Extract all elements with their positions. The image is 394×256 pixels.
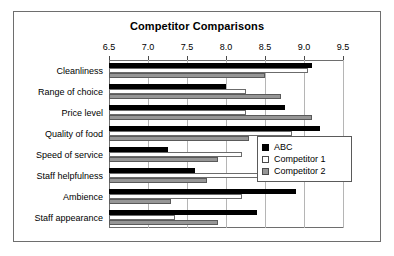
y-axis-category-label: Quality of food (45, 129, 103, 139)
legend-label: Competitor 2 (274, 166, 326, 176)
bar (109, 220, 218, 225)
legend-swatch-icon (262, 156, 269, 163)
bar (109, 157, 218, 162)
y-axis-category-labels: CleanlinessRange of choicePrice levelQua… (14, 60, 107, 228)
x-tick-label: 8.0 (220, 42, 233, 52)
bar (109, 94, 281, 99)
bar-group (109, 102, 343, 123)
y-axis-category-label: Cleanliness (56, 66, 103, 76)
bar (109, 73, 265, 78)
y-axis-category-label: Price level (61, 108, 103, 118)
bar-group (109, 186, 343, 207)
y-axis-category-label: Staff appearance (35, 213, 103, 223)
legend-item: ABC (262, 141, 346, 153)
bar-group (109, 60, 343, 81)
legend-swatch-icon (262, 144, 269, 151)
y-axis-category-label: Staff helpfulness (37, 171, 103, 181)
bar (109, 136, 249, 141)
x-tick-label: 7.5 (181, 42, 194, 52)
bar (109, 115, 312, 120)
bar (109, 199, 171, 204)
x-tick-label: 6.5 (103, 42, 116, 52)
x-tick-label: 8.5 (259, 42, 272, 52)
y-axis-category-label: Ambience (63, 192, 103, 202)
chart-frame: Competitor Comparisons 6.57.07.58.08.59.… (13, 11, 381, 242)
bar-group (109, 81, 343, 102)
bar (109, 178, 207, 183)
x-tick-label: 9.0 (298, 42, 311, 52)
y-axis-category-label: Range of choice (38, 87, 103, 97)
y-axis-category-label: Speed of service (36, 150, 103, 160)
legend-label: Competitor 1 (274, 154, 326, 164)
x-tick-label: 9.5 (337, 42, 350, 52)
legend-swatch-icon (262, 168, 269, 175)
legend-item: Competitor 2 (262, 165, 346, 177)
bar-group (109, 207, 343, 228)
chart-title: Competitor Comparisons (14, 20, 380, 32)
legend-label: ABC (274, 142, 293, 152)
chart-legend: ABCCompetitor 1Competitor 2 (257, 136, 352, 182)
legend-item: Competitor 1 (262, 153, 346, 165)
x-tick-label: 7.0 (142, 42, 155, 52)
